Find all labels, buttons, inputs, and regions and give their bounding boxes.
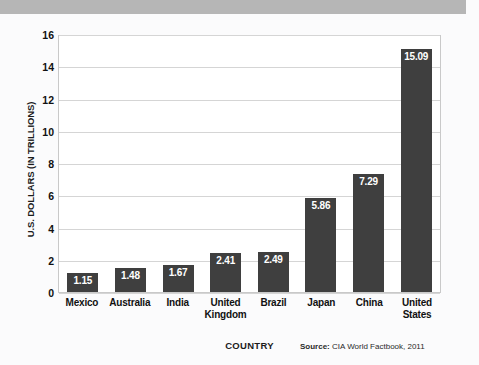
x-tick-label: China: [345, 297, 393, 321]
bar[interactable]: 7.29: [353, 174, 384, 292]
x-tick-label: Japan: [297, 297, 345, 321]
source-label: Source:: [300, 342, 330, 351]
bar[interactable]: 1.15: [67, 273, 98, 292]
x-tick-label: UnitedKingdom: [202, 297, 250, 321]
x-tick-label-line: Kingdom: [202, 309, 250, 321]
bar-slot: 7.29: [345, 36, 393, 292]
plot-area: 1.151.481.672.412.495.867.2915.09: [58, 35, 441, 293]
y-axis-tick-labels: 0246810121416: [24, 35, 54, 293]
gridline: [59, 293, 440, 294]
x-tick-label-line: Australia: [106, 297, 154, 309]
x-axis-tick-labels: MexicoAustraliaIndiaUnitedKingdomBrazilJ…: [58, 297, 441, 321]
y-tick-label: 10: [28, 126, 54, 138]
bar-value-label: 2.49: [258, 254, 289, 265]
y-tick-label: 14: [28, 61, 54, 73]
bar-value-label: 15.09: [401, 51, 432, 62]
bar-value-label: 5.86: [305, 200, 336, 211]
y-tick-label: 4: [28, 223, 54, 235]
bar-value-label: 7.29: [353, 176, 384, 187]
x-tick-label: Mexico: [58, 297, 106, 321]
y-tick-label: 2: [28, 255, 54, 267]
y-tick-label: 12: [28, 94, 54, 106]
bar-value-label: 2.41: [210, 255, 241, 266]
x-tick-label-line: United: [202, 297, 250, 309]
bars-layer: 1.151.481.672.412.495.867.2915.09: [59, 36, 440, 292]
bar[interactable]: 5.86: [305, 198, 336, 292]
bar-slot: 15.09: [392, 36, 440, 292]
bar[interactable]: 2.41: [210, 253, 241, 292]
x-tick-label-line: Mexico: [58, 297, 106, 309]
x-tick-label-line: India: [154, 297, 202, 309]
source-note: Source: CIA World Factbook, 2011: [300, 342, 425, 351]
bar-chart-figure: U.S. DOLLARS (IN TRILLIONS) 024681012141…: [0, 14, 479, 365]
bar[interactable]: 2.49: [258, 252, 289, 292]
bar-value-label: 1.67: [163, 267, 194, 278]
top-decorative-band: [0, 0, 466, 14]
y-tick-label: 0: [28, 287, 54, 299]
bar-slot: 2.41: [202, 36, 250, 292]
x-tick-label-line: Brazil: [250, 297, 298, 309]
bar-slot: 5.86: [297, 36, 345, 292]
x-tick-label: Australia: [106, 297, 154, 321]
x-tick-label-line: Japan: [297, 297, 345, 309]
x-tick-label: India: [154, 297, 202, 321]
bar-value-label: 1.48: [115, 270, 146, 281]
bar-slot: 1.48: [107, 36, 155, 292]
x-tick-label-line: China: [345, 297, 393, 309]
y-tick-label: 16: [28, 29, 54, 41]
bar-slot: 1.15: [59, 36, 107, 292]
bar[interactable]: 1.48: [115, 268, 146, 292]
x-tick-label: UnitedStates: [393, 297, 441, 321]
x-tick-label-line: United: [393, 297, 441, 309]
bar[interactable]: 1.67: [163, 265, 194, 292]
y-tick-label: 6: [28, 190, 54, 202]
x-tick-label-line: States: [393, 309, 441, 321]
x-tick-label: Brazil: [250, 297, 298, 321]
bar[interactable]: 15.09: [401, 49, 432, 292]
bar-slot: 2.49: [250, 36, 298, 292]
bar-slot: 1.67: [154, 36, 202, 292]
y-tick-label: 8: [28, 158, 54, 170]
source-text: CIA World Factbook, 2011: [332, 342, 425, 351]
bar-value-label: 1.15: [67, 275, 98, 286]
